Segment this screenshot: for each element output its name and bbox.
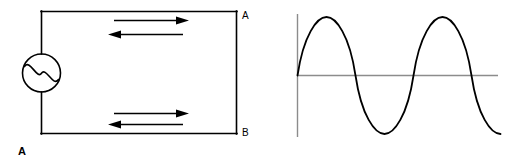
top-arrow-right: [114, 17, 189, 25]
panel-b-waveform: 1 0 -1 B: [257, 0, 515, 166]
bottom-arrow-left: [108, 121, 183, 129]
top-arrow-left: [108, 31, 183, 39]
node-label-b: B: [242, 128, 249, 138]
circuit-loop-wires: [41, 11, 237, 134]
panel-a-label: A: [18, 146, 26, 157]
current-arrows: [108, 17, 189, 129]
node-label-a: A: [242, 11, 249, 21]
plot-axes: [297, 14, 498, 137]
panel-a-circuit: A B A: [0, 0, 257, 166]
bottom-arrow-right: [114, 110, 189, 118]
figure-root: A B A 1 0 -1 B: [0, 0, 515, 166]
sine-glyph-icon: [25, 65, 59, 82]
circuit-schematic-svg: [0, 0, 257, 166]
waveform-plot-svg: [257, 0, 515, 166]
ac-source-symbol: [23, 54, 61, 92]
